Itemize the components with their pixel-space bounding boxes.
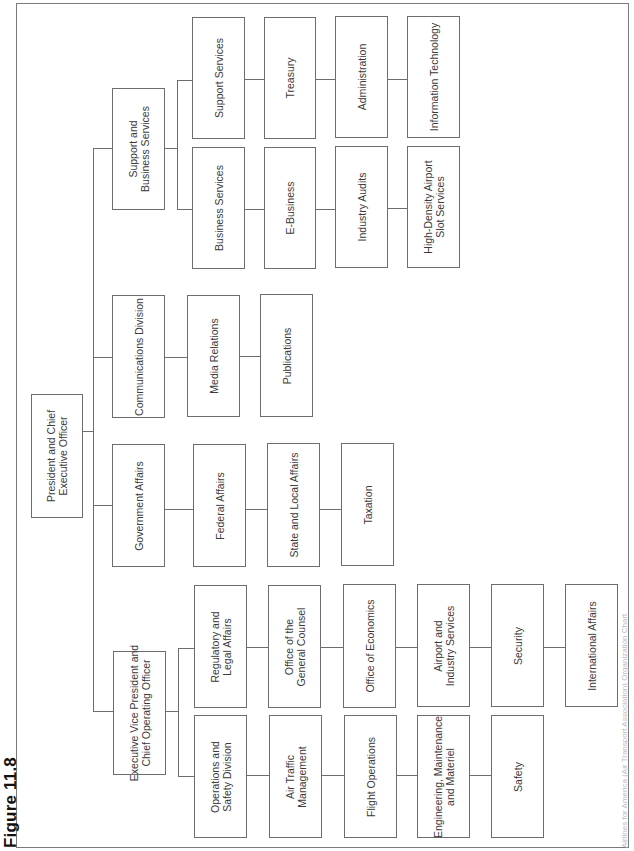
box-label: Support and Business Services — [127, 106, 151, 192]
box-support-services: Support Services — [192, 17, 245, 139]
box-label: Engineering, Maintenance and Materiel — [432, 715, 456, 837]
box-flight-operations: Flight Operations — [344, 715, 397, 838]
box-label: Information Technology — [428, 23, 440, 131]
box-air-traffic-management: Air Traffic Management — [269, 715, 322, 838]
box-label: Treasury — [284, 57, 296, 98]
connector — [470, 775, 492, 776]
connector — [166, 711, 178, 712]
box-international-affairs: International Affairs — [565, 584, 618, 707]
connector-spine — [93, 148, 94, 712]
connector — [177, 80, 193, 81]
connector — [396, 647, 418, 648]
box-high-density-airport-slot-services: High-Density Airport Slot Services — [407, 146, 460, 268]
connector — [245, 79, 264, 80]
connector — [544, 647, 566, 648]
box-label: Air Traffic Management — [284, 746, 308, 807]
box-security: Security — [491, 584, 544, 707]
connector — [165, 509, 193, 510]
connector — [245, 209, 264, 210]
box-business-services: Business Services — [192, 147, 245, 269]
box-media-relations: Media Relations — [187, 295, 240, 417]
connector-evp — [93, 711, 113, 712]
box-label: State and Local Affairs — [288, 453, 300, 558]
connector-support — [93, 148, 113, 149]
connector — [165, 357, 187, 358]
connector — [178, 776, 195, 777]
box-label: Media Relations — [208, 318, 220, 393]
box-engineering-maintenance-materiel: Engineering, Maintenance and Materiel — [417, 715, 470, 838]
figure-caption: Airlines for America (Air Transport Asso… — [620, 614, 629, 848]
box-label: Federal Affairs — [214, 472, 226, 540]
connector — [177, 80, 178, 210]
box-label: Regulatory and Legal Affairs — [209, 611, 233, 682]
connector — [316, 209, 335, 210]
connector — [178, 648, 195, 649]
box-label: International Affairs — [586, 601, 598, 691]
box-state-local-affairs: State and Local Affairs — [267, 443, 320, 567]
connector — [388, 208, 407, 209]
connector-communications — [93, 357, 113, 358]
box-label: Taxation — [362, 485, 374, 524]
box-president-ceo: President and Chief Executive Officer — [31, 394, 83, 518]
box-administration: Administration — [335, 16, 388, 138]
box-label: Support Services — [213, 38, 225, 118]
box-label: Executive Vice President and Chief Opera… — [128, 645, 152, 781]
box-airport-industry-services: Airport and Industry Services — [417, 584, 470, 707]
connector — [247, 647, 269, 648]
box-communications-division: Communications Division — [112, 295, 165, 418]
box-label: Publications — [281, 327, 293, 384]
box-information-technology: Information Technology — [407, 16, 460, 138]
box-label: Administration — [356, 44, 368, 111]
connector-root — [82, 431, 94, 432]
box-office-economics: Office of Economics — [343, 584, 396, 708]
connector — [240, 356, 261, 357]
box-label: Government Affairs — [133, 461, 145, 551]
connector — [320, 509, 342, 510]
box-label: Operations and Safety Division — [209, 741, 233, 813]
box-label: Business Services — [213, 165, 225, 251]
connector — [246, 509, 267, 510]
connector — [397, 775, 418, 776]
box-label: Safety — [512, 762, 524, 792]
box-label: Security — [512, 627, 524, 665]
box-support-business-services: Support and Business Services — [112, 88, 165, 210]
box-publications: Publications — [260, 294, 313, 417]
connector — [247, 775, 269, 776]
connector — [316, 79, 335, 80]
box-label: Airport and Industry Services — [432, 605, 456, 686]
box-label: Office of the General Counsel — [283, 607, 307, 686]
connector — [388, 79, 407, 80]
box-federal-affairs: Federal Affairs — [193, 444, 246, 567]
box-label: High-Density Airport Slot Services — [422, 160, 446, 253]
box-label: Industry Audits — [356, 173, 368, 242]
box-taxation: Taxation — [341, 443, 394, 566]
box-label: Flight Operations — [365, 737, 377, 817]
box-label: President and Chief Executive Officer — [45, 410, 69, 502]
box-e-business: E-Business — [264, 147, 316, 269]
connector — [178, 648, 179, 777]
connector — [322, 775, 344, 776]
box-industry-audits: Industry Audits — [335, 146, 388, 268]
connector — [470, 647, 492, 648]
box-label: E-Business — [284, 181, 296, 234]
box-regulatory-legal-affairs: Regulatory and Legal Affairs — [194, 585, 247, 708]
connector — [177, 209, 193, 210]
box-operations-safety-division: Operations and Safety Division — [194, 715, 247, 838]
connector-government — [93, 505, 113, 506]
box-office-general-counsel: Office of the General Counsel — [268, 585, 321, 708]
connector — [321, 647, 343, 648]
box-government-affairs: Government Affairs — [112, 444, 165, 567]
box-treasury: Treasury — [264, 17, 316, 139]
box-safety: Safety — [491, 715, 544, 838]
box-label: Office of Economics — [364, 599, 376, 692]
figure-label: Figure 11.8 — [1, 757, 21, 848]
box-label: Communications Division — [133, 298, 145, 416]
box-evp-coo: Executive Vice President and Chief Opera… — [113, 651, 166, 775]
